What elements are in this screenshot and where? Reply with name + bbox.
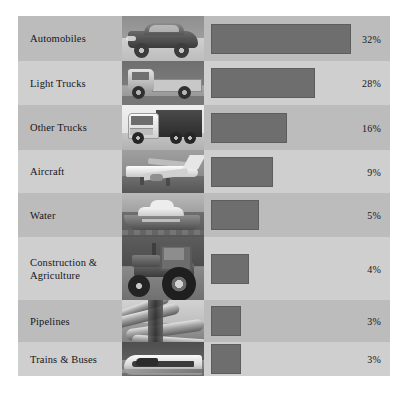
category-label: Aircraft	[30, 165, 64, 178]
category-label-cell: Other Trucks	[18, 105, 122, 150]
category-label-cell: Construction & Agriculture	[18, 237, 122, 300]
chart-row: Other Trucks16%	[18, 105, 390, 150]
chart-row: Automobiles32%	[18, 16, 390, 61]
pipeline-photo	[122, 300, 204, 342]
bar-value-label: 16%	[362, 122, 381, 133]
bar	[211, 200, 259, 230]
category-label: Automobiles	[30, 32, 86, 45]
bar-cell: 4%	[204, 237, 390, 300]
bar	[211, 68, 315, 98]
thumbnail-artwork	[122, 16, 204, 61]
chart-row: Aircraft9%	[18, 150, 390, 193]
bar-cell: 28%	[204, 61, 390, 105]
thumbnail-artwork	[122, 150, 204, 193]
category-label: Other Trucks	[30, 121, 87, 134]
bar-value-label: 9%	[367, 166, 381, 177]
category-label: Water	[30, 209, 56, 222]
category-label-cell: Light Trucks	[18, 61, 122, 105]
category-label: Construction & Agriculture	[30, 256, 118, 282]
bar-cell: 5%	[204, 193, 390, 237]
thumbnail-artwork	[122, 193, 204, 237]
bar-cell: 3%	[204, 300, 390, 342]
category-label-cell: Trains & Buses	[18, 342, 122, 376]
bar-value-label: 3%	[367, 354, 381, 365]
chart-row: Light Trucks28%	[18, 61, 390, 105]
bar-value-label: 4%	[367, 263, 381, 274]
bar-cell: 3%	[204, 342, 390, 376]
chart-row: Water5%	[18, 193, 390, 237]
thumbnail-artwork	[122, 105, 204, 150]
train-photo	[122, 342, 204, 376]
bar	[211, 113, 287, 143]
category-label-cell: Water	[18, 193, 122, 237]
bar	[211, 254, 249, 284]
aircraft-photo	[122, 150, 204, 193]
bar-value-label: 5%	[367, 210, 381, 221]
bar	[211, 24, 351, 54]
category-label-cell: Automobiles	[18, 16, 122, 61]
chart-row: Construction & Agriculture4%	[18, 237, 390, 300]
category-label: Light Trucks	[30, 77, 86, 90]
bar-value-label: 3%	[367, 316, 381, 327]
category-label: Trains & Buses	[30, 353, 97, 366]
category-label-cell: Aircraft	[18, 150, 122, 193]
category-label-cell: Pipelines	[18, 300, 122, 342]
tractor-photo	[122, 237, 204, 300]
transportation-mode-bar-chart: Automobiles32%Light Trucks28%Other Truck…	[18, 16, 390, 376]
water-vessel-photo	[122, 193, 204, 237]
automobile-photo	[122, 16, 204, 61]
bar-value-label: 28%	[362, 78, 381, 89]
bar-cell: 32%	[204, 16, 390, 61]
light-truck-photo	[122, 61, 204, 105]
bar-value-label: 32%	[362, 33, 381, 44]
chart-row: Trains & Buses3%	[18, 342, 390, 376]
bar	[211, 306, 241, 336]
category-label: Pipelines	[30, 315, 70, 328]
bar	[211, 344, 241, 374]
bar-cell: 9%	[204, 150, 390, 193]
thumbnail-artwork	[122, 237, 204, 300]
thumbnail-artwork	[122, 61, 204, 105]
other-truck-photo	[122, 105, 204, 150]
bar-cell: 16%	[204, 105, 390, 150]
thumbnail-artwork	[122, 342, 204, 376]
chart-row: Pipelines3%	[18, 300, 390, 342]
thumbnail-artwork	[122, 300, 204, 342]
bar	[211, 157, 273, 187]
